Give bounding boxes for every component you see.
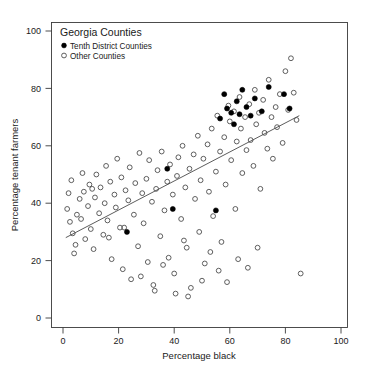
data-point [176, 155, 181, 160]
x-axis-title: Percentage black [162, 350, 236, 361]
data-point [240, 87, 245, 92]
data-point [236, 257, 241, 262]
data-point [222, 135, 227, 140]
data-point [239, 126, 244, 131]
data-point [243, 115, 248, 120]
y-axis-tick-labels: 020406080100 [26, 26, 41, 323]
data-point [201, 156, 206, 161]
legend: Georgia Counties Tenth District Counties… [60, 26, 152, 61]
data-point [115, 156, 120, 161]
data-point [179, 217, 184, 222]
data-point [252, 96, 257, 101]
data-point [248, 113, 253, 118]
scatter-plot-figure: 020406080100 020406080100 Percentage bla… [0, 0, 365, 377]
data-point [102, 201, 107, 206]
data-point [170, 206, 175, 211]
data-point [119, 175, 124, 180]
data-point [168, 162, 173, 167]
data-point [94, 172, 99, 177]
data-point [258, 186, 263, 191]
data-point [251, 163, 256, 168]
data-point [183, 185, 188, 190]
data-point [158, 234, 163, 239]
data-point [219, 240, 224, 245]
x-tick-label-20: 20 [114, 336, 124, 346]
data-point [209, 126, 214, 131]
data-point [80, 171, 85, 176]
y-tick-label-80: 80 [31, 84, 41, 94]
data-point [229, 158, 234, 163]
data-point [244, 105, 249, 110]
data-points-other-counties [65, 56, 303, 299]
legend-title: Georgia Counties [60, 26, 142, 38]
data-point [162, 208, 167, 213]
data-point [86, 204, 91, 209]
data-point [266, 84, 271, 89]
data-point [269, 115, 274, 120]
data-point [182, 238, 187, 243]
data-point [166, 255, 171, 260]
data-point [234, 99, 239, 104]
data-point [213, 208, 218, 213]
data-point [200, 278, 205, 283]
data-point [136, 244, 141, 249]
data-point [131, 212, 136, 217]
regression-line-segment [66, 116, 300, 238]
data-point [93, 195, 98, 200]
x-tick-label-100: 100 [333, 336, 348, 346]
legend-marker-open-circle-icon [62, 53, 67, 58]
data-point [222, 92, 227, 97]
data-point [186, 294, 191, 299]
data-point [218, 149, 223, 154]
data-point [184, 245, 189, 250]
y-tick-label-60: 60 [31, 141, 41, 151]
data-point [252, 87, 257, 92]
data-point [151, 283, 156, 288]
data-point [165, 166, 170, 171]
data-point [254, 122, 259, 127]
data-point [140, 191, 145, 196]
data-point [280, 141, 285, 146]
data-point [188, 285, 193, 290]
chart-canvas: 020406080100 020406080100 Percentage bla… [0, 0, 365, 377]
data-point [237, 112, 242, 117]
data-point [240, 171, 245, 176]
x-tick-label-40: 40 [169, 336, 179, 346]
data-point [126, 198, 131, 203]
data-point [211, 214, 216, 219]
x-axis-tick-labels: 020406080100 [60, 336, 348, 346]
data-point [65, 207, 70, 212]
data-point [214, 169, 219, 174]
data-point [91, 247, 96, 252]
data-point [124, 229, 129, 234]
data-point [81, 189, 86, 194]
data-point [205, 142, 210, 147]
data-point [231, 122, 236, 127]
data-point [197, 230, 202, 235]
data-point [218, 116, 223, 121]
data-point [105, 218, 110, 223]
data-point [88, 227, 93, 232]
data-point [223, 182, 228, 187]
regression-line [66, 116, 300, 238]
x-tick-label-80: 80 [280, 336, 290, 346]
data-point [207, 189, 212, 194]
data-point [113, 205, 118, 210]
data-point [127, 165, 132, 170]
data-point [72, 251, 77, 256]
data-point [133, 181, 138, 186]
data-point [138, 274, 143, 279]
x-tick-label-60: 60 [225, 336, 235, 346]
data-point [283, 69, 288, 74]
data-point [112, 192, 117, 197]
data-point [289, 56, 294, 61]
data-point [259, 109, 264, 114]
data-points-tenth-district [124, 84, 292, 234]
legend-label-tenth-district: Tenth District Counties [70, 42, 152, 51]
data-point [234, 139, 239, 144]
data-point [155, 168, 160, 173]
data-point [150, 199, 155, 204]
data-point [101, 232, 106, 237]
data-point [229, 110, 234, 115]
data-point [233, 207, 238, 212]
